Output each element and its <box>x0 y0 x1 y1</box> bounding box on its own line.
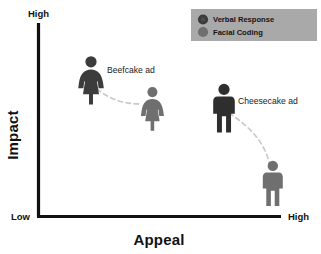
y-axis-high-label: High <box>28 8 49 19</box>
y-axis-title: Impact <box>4 110 21 160</box>
chart-legend: Verbal Response Facial Coding <box>191 9 317 41</box>
legend-label-facial-coding: Facial Coding <box>213 28 263 37</box>
datapoint-beefcake-verbal-response[interactable] <box>78 56 104 104</box>
male-figure-icon <box>213 84 235 133</box>
annotation-cheesecake-ad: Cheesecake ad <box>238 96 298 106</box>
legend-marker-facial-coding-icon <box>198 27 208 37</box>
chart-canvas: High Low High Impact Appeal <box>0 0 321 254</box>
female-figure-icon <box>78 56 104 104</box>
connector-cheesecake <box>229 113 270 166</box>
datapoint-cheesecake-verbal-response[interactable] <box>213 84 235 133</box>
datapoint-beefcake-facial-coding[interactable] <box>141 87 164 131</box>
impact-appeal-scatter-chart: High Low High Impact Appeal <box>0 0 321 254</box>
datapoint-cheesecake-facial-coding[interactable] <box>263 161 283 206</box>
x-axis-title: Appeal <box>133 231 184 248</box>
annotation-beefcake-ad: Beefcake ad <box>107 65 155 75</box>
y-axis-low-label: Low <box>11 211 31 222</box>
male-figure-icon <box>263 161 283 206</box>
connector-beefcake <box>97 89 141 104</box>
legend-marker-verbal-response-highlight-icon <box>201 17 206 22</box>
legend-label-verbal-response: Verbal Response <box>213 15 274 24</box>
x-axis-high-label: High <box>288 211 309 222</box>
female-figure-icon <box>141 87 164 131</box>
